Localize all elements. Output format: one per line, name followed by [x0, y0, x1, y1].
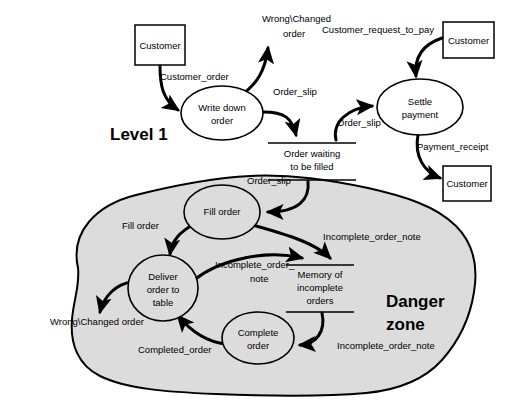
dfd-diagram-canvas: Customer Customer Customer Order waiting… — [0, 0, 526, 414]
process-label-line-1: Write down — [198, 102, 245, 113]
process-deliver-order-to-table: Deliver order to table — [128, 255, 198, 321]
entity-label: Customer — [446, 178, 487, 189]
flow-order-slip-to-store — [263, 112, 296, 135]
external-entity-customer-receipt: Customer — [443, 166, 491, 201]
flow-label-customer-request-to-pay: Customer_request_to_pay — [322, 24, 434, 35]
flow-label-order-slip-top: Order_slip — [273, 86, 317, 97]
entity-label: Customer — [448, 35, 489, 46]
process-fill-order: Fill order — [184, 185, 260, 239]
flow-label-incomplete-order-note-fill: Incomplete_order_note — [323, 231, 421, 242]
process-settle-payment: Settle payment — [377, 79, 463, 135]
flow-label-wrong-changed-order-top-line-2: order — [283, 28, 305, 39]
flow-label-wrong-changed-order-bottom: Wrong\Changed order — [50, 316, 144, 327]
data-store-label-line-1: Memory of — [298, 269, 343, 280]
flow-label-completed-order: Completed_order — [138, 344, 211, 355]
process-label-line-1: Fill order — [204, 206, 241, 217]
flow-label-customer-order: Customer_order — [160, 71, 229, 82]
flow-label-order-slip-to-settle: Order_slip — [337, 117, 381, 128]
process-label-line-1: Settle — [408, 96, 432, 107]
flow-label-incomplete-order-note-deliver-line-1: Incomplete_order_ — [215, 259, 295, 270]
process-complete-order: Complete order — [222, 312, 294, 364]
flow-label-order-slip-to-fill: Order_slip — [247, 175, 291, 186]
external-entity-customer-pay-request: Customer — [443, 22, 494, 58]
process-label-line-2: order to — [147, 284, 180, 295]
process-label-line-2: payment — [402, 109, 439, 120]
data-store-label-line-2: to be filled — [290, 161, 333, 172]
process-label-line-2: order — [211, 115, 233, 126]
process-label-line-1: Complete — [238, 327, 279, 338]
dfd-svg: Customer Customer Customer Order waiting… — [0, 0, 526, 414]
heading-level-1: Level 1 — [110, 125, 168, 144]
entity-label: Customer — [139, 40, 180, 51]
data-store-label-line-1: Order waiting — [284, 148, 341, 159]
flow-label-incomplete-order-note-deliver-line-2: note — [250, 273, 269, 284]
flow-label-incomplete-order-note-complete: Incomplete_order_note — [337, 340, 435, 351]
flow-label-wrong-changed-order-top-line-1: Wrong\Changed — [262, 13, 331, 24]
flow-label-fill-order: Fill order — [122, 220, 159, 231]
data-store-label-line-3: orders — [307, 295, 334, 306]
process-write-down-order: Write down order — [181, 86, 263, 140]
flow-customer-request-to-pay — [416, 38, 442, 76]
heading-danger-zone-line-2: zone — [386, 315, 425, 334]
heading-danger-zone-line-1: Danger — [386, 292, 445, 311]
flow-wrong-changed-order-top — [243, 48, 268, 94]
flow-label-payment-receipt: Payment_receipt — [417, 141, 489, 152]
external-entity-customer-order-source: Customer — [135, 25, 185, 65]
process-label-line-2: order — [247, 340, 269, 351]
process-label-line-1: Deliver — [148, 271, 178, 282]
data-store-label-line-2: incomplete — [297, 282, 343, 293]
process-label-line-3: table — [153, 297, 174, 308]
